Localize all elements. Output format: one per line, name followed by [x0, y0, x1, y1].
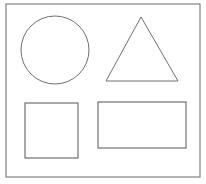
circle-shape	[21, 16, 89, 84]
triangle-shape	[106, 17, 178, 81]
shapes-diagram	[0, 0, 206, 184]
rectangle-shape	[98, 102, 186, 148]
outer-frame	[6, 4, 200, 177]
square-shape	[25, 103, 78, 158]
